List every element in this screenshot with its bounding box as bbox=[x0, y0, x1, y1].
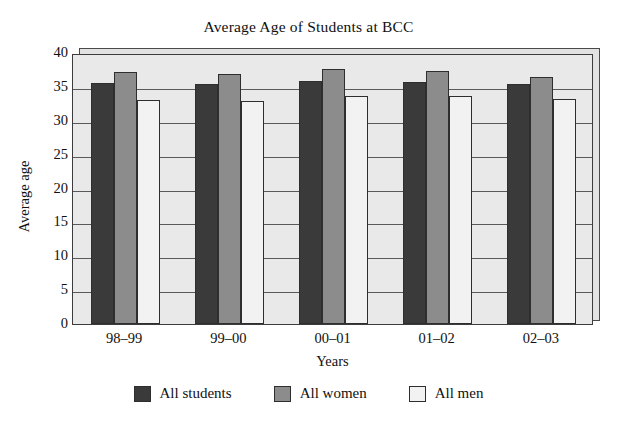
legend-swatch-icon bbox=[134, 386, 151, 402]
bar[interactable] bbox=[553, 99, 576, 324]
bar[interactable] bbox=[403, 82, 426, 324]
bars-layer bbox=[73, 55, 592, 324]
y-tick-label: 30 bbox=[30, 113, 68, 128]
chart-figure: Average Age of Students at BCC Average a… bbox=[0, 0, 617, 436]
bar[interactable] bbox=[218, 74, 241, 324]
x-tick-label: 98–99 bbox=[106, 330, 142, 347]
bar-group bbox=[195, 55, 264, 324]
bar[interactable] bbox=[137, 100, 160, 324]
x-axis-tick-labels: 98–9999–0000–0101–0202–03 bbox=[72, 330, 593, 352]
legend-item[interactable]: All students bbox=[134, 385, 232, 402]
bar-group bbox=[403, 55, 472, 324]
legend-item[interactable]: All men bbox=[409, 385, 484, 402]
bar[interactable] bbox=[507, 84, 530, 325]
y-tick-label: 25 bbox=[30, 146, 68, 161]
legend-item[interactable]: All women bbox=[274, 385, 367, 402]
legend-swatch-icon bbox=[409, 386, 426, 402]
legend-label: All women bbox=[300, 385, 367, 402]
chart-legend: All studentsAll womenAll men bbox=[0, 385, 617, 402]
y-tick-label: 0 bbox=[30, 316, 68, 331]
bar[interactable] bbox=[241, 101, 264, 324]
y-tick-label: 35 bbox=[30, 79, 68, 94]
legend-label: All students bbox=[160, 385, 232, 402]
y-tick-label: 15 bbox=[30, 214, 68, 229]
x-tick-label: 01–02 bbox=[419, 330, 455, 347]
bar[interactable] bbox=[449, 96, 472, 324]
bar[interactable] bbox=[299, 81, 322, 324]
bar-group bbox=[507, 55, 576, 324]
bar[interactable] bbox=[426, 71, 449, 324]
y-tick-label: 5 bbox=[30, 282, 68, 297]
y-axis-tick-labels: 0510152025303540 bbox=[30, 52, 68, 325]
y-tick-label: 20 bbox=[30, 180, 68, 195]
bar-group bbox=[91, 55, 160, 324]
bar[interactable] bbox=[345, 96, 368, 324]
bar-group bbox=[299, 55, 368, 324]
x-tick-label: 02–03 bbox=[523, 330, 559, 347]
bar[interactable] bbox=[114, 72, 137, 324]
x-tick-label: 99–00 bbox=[210, 330, 246, 347]
legend-swatch-icon bbox=[274, 386, 291, 402]
x-tick-label: 00–01 bbox=[314, 330, 350, 347]
x-axis-title: Years bbox=[72, 353, 593, 370]
y-tick-label: 40 bbox=[30, 45, 68, 60]
y-tick-label: 10 bbox=[30, 248, 68, 263]
plot-area bbox=[72, 54, 593, 325]
legend-label: All men bbox=[435, 385, 484, 402]
bar[interactable] bbox=[195, 84, 218, 325]
bar[interactable] bbox=[530, 77, 553, 324]
bar[interactable] bbox=[91, 83, 114, 324]
chart-title: Average Age of Students at BCC bbox=[0, 18, 617, 36]
bar[interactable] bbox=[322, 69, 345, 324]
